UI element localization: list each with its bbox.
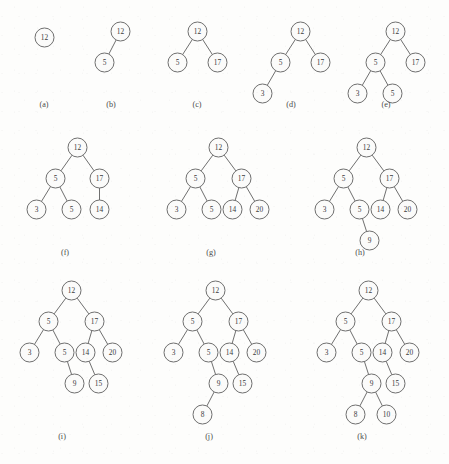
tree-edge bbox=[385, 330, 389, 343]
tree-node: 5 bbox=[199, 343, 218, 362]
tree-node: 5 bbox=[366, 53, 385, 72]
tree-node: 17 bbox=[85, 312, 104, 331]
node-label: 3 bbox=[27, 348, 31, 357]
tree-edge bbox=[305, 39, 315, 54]
tree-node: 17 bbox=[406, 53, 425, 72]
node-label: 5 bbox=[190, 317, 194, 326]
tree-edge bbox=[233, 361, 239, 374]
tree-a: 12 bbox=[33, 26, 56, 49]
tree-edge bbox=[394, 186, 402, 201]
tree-edge bbox=[232, 330, 236, 343]
tree-node: 12 bbox=[62, 281, 81, 300]
node-label: 14 bbox=[228, 205, 236, 214]
tree-g: 12517351420 bbox=[165, 136, 271, 221]
node-label: 5 bbox=[278, 58, 282, 67]
node-label: 12 bbox=[193, 27, 201, 36]
tree-edge bbox=[359, 391, 366, 405]
node-label: 5 bbox=[390, 89, 394, 98]
bst-insertion-figure: 12(a)125(b)12517(c)125173(d)1251735(e)12… bbox=[0, 0, 449, 464]
tree-node: 17 bbox=[311, 53, 330, 72]
tree-node: 3 bbox=[27, 200, 46, 219]
tree-b: 125 bbox=[93, 20, 132, 74]
tree-edge bbox=[380, 39, 390, 54]
tree-edge bbox=[372, 155, 384, 171]
node-label: 17 bbox=[387, 317, 395, 326]
tree-node: 12 bbox=[188, 22, 207, 41]
tree-node: 3 bbox=[164, 343, 183, 362]
node-label: 9 bbox=[216, 379, 220, 388]
node-label: 9 bbox=[367, 236, 371, 245]
node-label: 20 bbox=[255, 205, 263, 214]
tree-node: 17 bbox=[90, 169, 109, 188]
tree-node: 5 bbox=[352, 343, 371, 362]
node-label: 5 bbox=[193, 174, 197, 183]
tree-edge bbox=[224, 155, 236, 171]
tree-edge bbox=[182, 39, 192, 54]
tree-node: 17 bbox=[229, 312, 248, 331]
tree-node: 9 bbox=[65, 374, 84, 393]
tree-edge bbox=[178, 329, 187, 344]
tree-node: 5 bbox=[46, 169, 65, 188]
tree-node: 3 bbox=[253, 84, 272, 103]
tree-edge bbox=[375, 392, 382, 406]
node-label: 17 bbox=[237, 174, 245, 183]
node-label: 5 bbox=[373, 58, 377, 67]
node-label: 3 bbox=[322, 205, 326, 214]
node-label: 3 bbox=[174, 205, 178, 214]
node-label: 20 bbox=[252, 348, 260, 357]
tree-edge bbox=[396, 329, 404, 344]
tree-node: 9 bbox=[209, 374, 228, 393]
tree-node: 5 bbox=[350, 200, 369, 219]
node-label: 17 bbox=[95, 174, 103, 183]
tree-caption: (g) bbox=[191, 248, 231, 257]
node-label: 3 bbox=[34, 205, 38, 214]
node-label: 5 bbox=[357, 205, 361, 214]
node-label: 3 bbox=[171, 348, 175, 357]
tree-node: 5 bbox=[39, 312, 58, 331]
tree-node: 15 bbox=[233, 374, 252, 393]
tree-node: 20 bbox=[250, 200, 269, 219]
tree-caption: (a) bbox=[24, 100, 64, 109]
tree-node: 20 bbox=[400, 343, 419, 362]
node-label: 12 bbox=[391, 27, 399, 36]
tree-edge bbox=[285, 39, 295, 54]
tree-edge bbox=[235, 187, 239, 200]
tree-node: 20 bbox=[398, 200, 417, 219]
tree-edge bbox=[380, 70, 388, 84]
tree-node: 14 bbox=[76, 343, 95, 362]
node-label: 5 bbox=[102, 58, 106, 67]
tree-edge bbox=[331, 329, 340, 344]
node-label: 14 bbox=[376, 205, 384, 214]
tree-k: 12517351420915810 bbox=[315, 279, 421, 426]
node-label: 3 bbox=[324, 348, 328, 357]
tree-edge bbox=[67, 361, 71, 374]
tree-node: 5 bbox=[271, 53, 290, 72]
node-label: 9 bbox=[369, 379, 373, 388]
tree-node: 12 bbox=[68, 138, 87, 157]
tree-caption: (d) bbox=[271, 100, 311, 109]
tree-node: 14 bbox=[223, 200, 242, 219]
tree-node: 5 bbox=[95, 53, 114, 72]
node-label: 5 bbox=[175, 58, 179, 67]
tree-edge bbox=[89, 361, 95, 374]
tree-node: 12 bbox=[357, 138, 376, 157]
tree-edge bbox=[34, 329, 43, 344]
node-label: 14 bbox=[95, 205, 103, 214]
node-label: 10 bbox=[382, 410, 390, 419]
node-label: 5 bbox=[53, 174, 57, 183]
tree-node: 14 bbox=[90, 200, 109, 219]
node-label: 8 bbox=[353, 410, 357, 419]
node-label: 5 bbox=[206, 348, 210, 357]
tree-j: 125173514209158 bbox=[162, 279, 268, 426]
tree-edge bbox=[108, 39, 115, 53]
tree-node: 20 bbox=[247, 343, 266, 362]
tree-node: 12 bbox=[111, 22, 130, 41]
tree-edge bbox=[198, 298, 210, 314]
tree-edge bbox=[386, 361, 392, 374]
tree-edge bbox=[77, 298, 89, 314]
tree-edge bbox=[400, 39, 410, 54]
tree-edge bbox=[349, 155, 361, 171]
tree-node: 12 bbox=[206, 281, 225, 300]
tree-edge bbox=[41, 186, 50, 201]
tree-node: 5 bbox=[168, 53, 187, 72]
